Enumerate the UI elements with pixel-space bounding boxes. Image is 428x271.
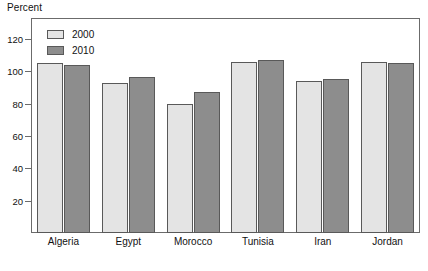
bar-egypt-2010 bbox=[129, 77, 155, 233]
y-axis-tick bbox=[25, 39, 31, 40]
y-axis-tick bbox=[25, 168, 31, 169]
bar-algeria-2010 bbox=[64, 65, 90, 233]
bar-tunisia-2010 bbox=[258, 60, 284, 233]
x-axis-label-tunisia: Tunisia bbox=[242, 236, 274, 247]
y-axis-tick bbox=[25, 136, 31, 137]
y-axis-tick bbox=[25, 71, 31, 72]
bar-group bbox=[296, 18, 349, 233]
bar-morocco-2000 bbox=[167, 104, 193, 233]
x-axis-label-morocco: Morocco bbox=[174, 236, 212, 247]
legend-label: 2010 bbox=[72, 45, 94, 56]
legend-swatch-2010 bbox=[47, 46, 64, 55]
y-axis-tick-label: 80 bbox=[1, 98, 23, 109]
bar-chart: Percent 20406080100120 AlgeriaEgyptMoroc… bbox=[0, 0, 428, 271]
y-axis-tick-label: 60 bbox=[1, 131, 23, 142]
x-axis-label-iran: Iran bbox=[314, 236, 331, 247]
x-axis-label-egypt: Egypt bbox=[115, 236, 141, 247]
x-axis-label-jordan: Jordan bbox=[372, 236, 403, 247]
bar-group bbox=[102, 18, 155, 233]
y-axis-tick bbox=[25, 201, 31, 202]
bar-iran-2010 bbox=[323, 79, 349, 233]
legend-swatch-2000 bbox=[47, 30, 64, 39]
legend-item-2000: 2000 bbox=[47, 27, 94, 41]
y-axis-labels: 20406080100120 bbox=[0, 0, 23, 271]
bar-tunisia-2000 bbox=[231, 62, 257, 233]
y-axis-tick-label: 120 bbox=[1, 34, 23, 45]
legend-label: 2000 bbox=[72, 29, 94, 40]
bar-jordan-2000 bbox=[361, 62, 387, 233]
x-axis-label-algeria: Algeria bbox=[48, 236, 79, 247]
bar-jordan-2010 bbox=[388, 63, 414, 233]
bar-group bbox=[231, 18, 284, 233]
bar-algeria-2000 bbox=[37, 63, 63, 233]
y-axis-tick-label: 40 bbox=[1, 163, 23, 174]
bar-morocco-2010 bbox=[194, 92, 220, 233]
y-axis-tick-label: 20 bbox=[1, 195, 23, 206]
chart-legend: 20002010 bbox=[47, 27, 94, 59]
x-axis-labels: AlgeriaEgyptMoroccoTunisiaIranJordan bbox=[31, 236, 420, 256]
bar-group bbox=[167, 18, 220, 233]
bar-iran-2000 bbox=[296, 81, 322, 233]
y-axis-tick-label: 100 bbox=[1, 66, 23, 77]
y-axis-tick bbox=[25, 104, 31, 105]
bar-egypt-2000 bbox=[102, 83, 128, 233]
legend-item-2010: 2010 bbox=[47, 43, 94, 57]
bar-group bbox=[361, 18, 414, 233]
